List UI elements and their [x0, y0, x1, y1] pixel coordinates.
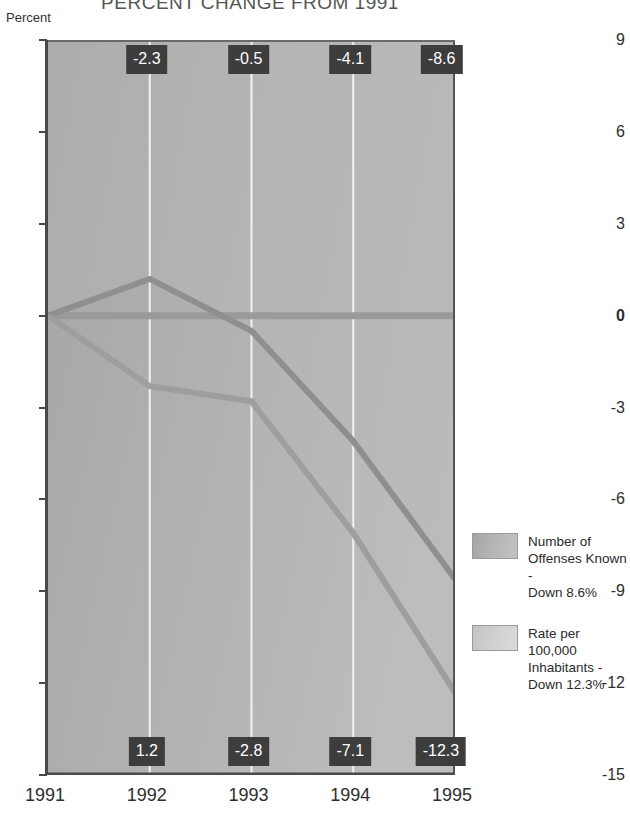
data-label-offenses: -4.1 — [329, 45, 371, 74]
y-tick-label: 3 — [588, 215, 630, 233]
chart-legend: Number of Offenses Known - Down 8.6% Rat… — [472, 533, 627, 717]
y-tick-label: -15 — [588, 766, 630, 784]
series-canvas — [48, 40, 455, 775]
data-label-offenses: -0.5 — [228, 45, 270, 74]
y-tick-label: -3 — [588, 399, 630, 417]
y-tick-label: 6 — [588, 123, 630, 141]
legend-line-2: Inhabitants - — [528, 659, 627, 676]
y-tick-label: -6 — [588, 490, 630, 508]
legend-line-1: Number of — [528, 533, 627, 550]
data-label-offenses: -2.3 — [126, 45, 168, 74]
data-label-offenses: -8.6 — [421, 45, 463, 74]
legend-line-2: Offenses Known - — [528, 550, 627, 584]
y-tick-label: 9 — [588, 31, 630, 49]
legend-item-rate: Rate per 100,000 Inhabitants - Down 12.3… — [472, 625, 627, 693]
y-axis-unit-label: Percent — [6, 10, 51, 25]
rate-swatch-icon — [472, 625, 518, 651]
legend-line-1: Rate per 100,000 — [528, 625, 627, 659]
legend-line-3: Down 12.3% — [528, 676, 627, 693]
offenses-swatch-icon — [472, 533, 518, 559]
legend-label-rate: Rate per 100,000 Inhabitants - Down 12.3… — [528, 625, 627, 693]
legend-line-3: Down 8.6% — [528, 584, 627, 601]
y-tick-label: 0 — [588, 307, 630, 325]
legend-label-offenses: Number of Offenses Known - Down 8.6% — [528, 533, 627, 601]
x-tick-label: 1993 — [228, 785, 268, 806]
chart-title: PERCENT CHANGE FROM 1991 — [0, 0, 500, 14]
plot-area — [45, 40, 455, 775]
x-tick-label: 1994 — [330, 785, 370, 806]
x-tick-label: 1995 — [432, 785, 472, 806]
x-tick-label: 1991 — [25, 785, 65, 806]
data-label-rate: -2.8 — [228, 737, 270, 766]
legend-item-offenses: Number of Offenses Known - Down 8.6% — [472, 533, 627, 601]
chart-figure: PERCENT CHANGE FROM 1991 Percent 9630-3-… — [0, 0, 630, 823]
data-label-rate: 1.2 — [129, 737, 165, 766]
x-tick-label: 1992 — [127, 785, 167, 806]
data-label-rate: -12.3 — [416, 737, 466, 766]
data-label-rate: -7.1 — [329, 737, 371, 766]
